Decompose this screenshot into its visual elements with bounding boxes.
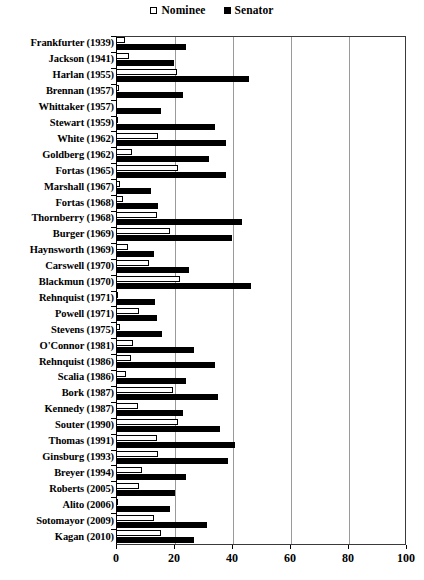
bar-senator [116, 522, 207, 528]
bar-nominee [116, 117, 118, 123]
table-row: Thomas (1991) [0, 434, 424, 450]
legend-entry-senator: Senator [224, 4, 274, 16]
bar-senator [116, 362, 215, 368]
x-axis-label-100: 100 [397, 551, 415, 566]
bar-senator [116, 108, 161, 114]
bar-nominee [116, 499, 118, 505]
table-row: Burger (1969) [0, 227, 424, 243]
table-row: Bork (1987) [0, 386, 424, 402]
x-axis-tick-60 [290, 545, 291, 549]
bar-nominee [116, 308, 139, 314]
open-square-swatch-icon [150, 7, 157, 14]
table-row: Scalia (1986) [0, 370, 424, 386]
bar-senator [116, 299, 155, 305]
table-row: Jackson (1941) [0, 52, 424, 68]
legend-entry-nominee: Nominee [150, 4, 205, 16]
bar-nominee [116, 419, 178, 425]
table-row: Kagan (2010) [0, 529, 424, 545]
table-row: Whittaker (1957) [0, 100, 424, 116]
bar-nominee [116, 212, 157, 218]
table-row: Harlan (1955) [0, 68, 424, 84]
x-axis: 020406080100 [116, 545, 406, 575]
category-label: Harlan (1955) [0, 70, 114, 81]
table-row: Stewart (1959) [0, 116, 424, 132]
table-row: Ginsburg (1993) [0, 450, 424, 466]
table-row: Roberts (2005) [0, 481, 424, 497]
category-label: Souter (1990) [0, 420, 114, 431]
bar-senator [116, 76, 249, 82]
table-row: Frankfurter (1939) [0, 36, 424, 52]
category-label: Kagan (2010) [0, 532, 114, 543]
x-axis-tick-80 [348, 545, 349, 549]
bar-senator [116, 172, 226, 178]
bar-senator [116, 283, 251, 289]
bar-senator [116, 394, 218, 400]
table-row: Marshall (1967) [0, 179, 424, 195]
bar-nominee [116, 451, 158, 457]
legend-label-nominee: Nominee [161, 4, 205, 16]
category-label: Haynsworth (1969) [0, 245, 114, 256]
x-axis-tick-100 [406, 545, 407, 549]
table-row: Rehnquist (1971) [0, 291, 424, 307]
bar-senator [116, 219, 242, 225]
category-label: Thomas (1991) [0, 436, 114, 447]
bar-nominee [116, 371, 126, 377]
bar-nominee [116, 530, 161, 536]
bar-senator [116, 315, 157, 321]
category-label: Fortas (1968) [0, 198, 114, 209]
bar-nominee [116, 467, 142, 473]
bar-nominee [116, 515, 154, 521]
bar-nominee [116, 244, 128, 250]
table-row: Alito (2006) [0, 497, 424, 513]
bar-nominee [116, 260, 149, 266]
category-label: Whittaker (1957) [0, 102, 114, 113]
category-label: Roberts (2005) [0, 484, 114, 495]
bar-senator [116, 92, 183, 98]
bar-nominee [116, 324, 120, 330]
bar-nominee [116, 276, 180, 282]
category-label: Powell (1971) [0, 309, 114, 320]
bar-rows: Frankfurter (1939)Jackson (1941)Harlan (… [0, 36, 424, 545]
bar-nominee [116, 133, 158, 139]
bar-senator [116, 458, 228, 464]
table-row: Powell (1971) [0, 306, 424, 322]
category-label: Stevens (1975) [0, 325, 114, 336]
category-label: Ginsburg (1993) [0, 452, 114, 463]
table-row: White (1962) [0, 131, 424, 147]
category-label: Frankfurter (1939) [0, 38, 114, 49]
category-label: Goldberg (1962) [0, 150, 114, 161]
category-label: Fortas (1965) [0, 166, 114, 177]
bar-senator [116, 124, 215, 130]
bar-nominee [116, 181, 120, 187]
bar-nominee [116, 435, 157, 441]
category-label: Thornberry (1968) [0, 213, 114, 224]
bar-senator [116, 410, 183, 416]
x-axis-label-80: 80 [342, 551, 354, 566]
bar-nominee [116, 483, 139, 489]
bar-senator [116, 140, 226, 146]
category-label: Jackson (1941) [0, 54, 114, 65]
category-label: Breyer (1994) [0, 468, 114, 479]
table-row: Goldberg (1962) [0, 147, 424, 163]
category-label: White (1962) [0, 134, 114, 145]
table-row: Stevens (1975) [0, 322, 424, 338]
bar-nominee [116, 196, 123, 202]
category-label: Scalia (1986) [0, 372, 114, 383]
bar-senator [116, 267, 189, 273]
bar-senator [116, 378, 186, 384]
bar-nominee [116, 165, 178, 171]
bar-senator [116, 235, 232, 241]
table-row: Thornberry (1968) [0, 211, 424, 227]
bar-nominee [116, 355, 131, 361]
table-row: Haynsworth (1969) [0, 243, 424, 259]
category-label: Rehnquist (1971) [0, 293, 114, 304]
category-label: Marshall (1967) [0, 182, 114, 193]
filled-square-swatch-icon [224, 7, 231, 14]
bar-senator [116, 44, 186, 50]
category-label: Kennedy (1987) [0, 404, 114, 415]
category-label: Sotomayor (2009) [0, 516, 114, 527]
supreme-court-nominee-chart: Nominee Senator Frankfurter (1939)Jackso… [0, 0, 424, 580]
x-axis-label-20: 20 [168, 551, 180, 566]
bar-senator [116, 490, 175, 496]
x-axis-label-60: 60 [284, 551, 296, 566]
